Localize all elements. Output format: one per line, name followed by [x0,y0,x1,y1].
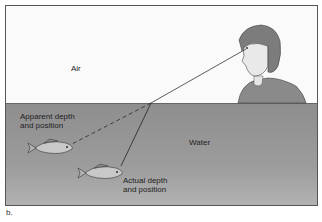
air-label: Air [71,64,81,73]
actual-fish-icon [78,164,122,179]
actual-ray [121,103,151,166]
apparent-line2: and position [20,121,75,130]
apparent-depth-label: Apparent depth and position [20,112,75,130]
actual-line2: and position [123,185,167,194]
apparent-line1: Apparent depth [20,112,75,121]
water-label: Water [189,138,210,147]
apparent-ray-dashed [72,103,151,144]
actual-depth-label: Actual depth and position [123,176,167,194]
sight-line-air [151,49,246,103]
apparent-fish-icon [28,139,72,154]
figure-caption: b. [6,208,13,217]
person-illustration [238,25,306,103]
actual-line1: Actual depth [123,176,167,185]
diagram-frame: Air Water Apparent depth and position Ac… [5,5,318,206]
eye-icon [246,47,248,49]
